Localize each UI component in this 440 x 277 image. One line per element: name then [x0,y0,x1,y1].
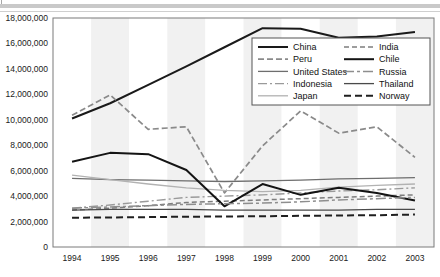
x-axis-tick-label: 1995 [101,253,120,263]
x-axis-tick-label: 2002 [367,253,386,263]
x-axis-tick-label: 2003 [405,253,424,263]
legend-label-india: India [379,42,399,52]
x-axis-tick-label: 1997 [177,253,196,263]
legend-label-russia: Russia [379,67,407,77]
x-axis-tick-label: 2001 [329,253,348,263]
x-axis-tick-label: 1999 [253,253,272,263]
x-axis-tick-label: 2000 [291,253,310,263]
y-axis-tick-labels: 02,000,0004,000,0006,000,0008,000,00010,… [5,13,48,252]
chart-canvas: 02,000,0004,000,0006,000,0008,000,00010,… [0,0,440,277]
legend-label-united-states: United States [293,67,348,77]
y-axis-tick-label: 6,000,000 [10,166,48,176]
y-axis-tick-label: 18,000,000 [5,13,48,23]
legend-label-japan: Japan [293,91,318,101]
line-chart-figure: 02,000,0004,000,0006,000,0008,000,00010,… [0,0,440,277]
chart-legend: ChinaPeruUnited StatesIndonesiaJapanIndi… [252,38,430,105]
x-axis-tick-label: 1996 [139,253,158,263]
y-axis-tick-label: 10,000,000 [5,115,48,125]
legend-label-indonesia: Indonesia [293,79,332,89]
legend-label-chile: Chile [379,54,400,64]
x-axis-tick-labels: 1994199519961997199819992000200120022003 [63,253,425,263]
legend-label-norway: Norway [379,91,410,101]
y-axis-tick-label: 4,000,000 [10,191,48,201]
y-axis-tick-label: 8,000,000 [10,140,48,150]
y-axis-tick-label: 14,000,000 [5,64,48,74]
legend-label-peru: Peru [293,54,312,64]
x-axis-tick-label: 1994 [63,253,82,263]
y-axis-tick-label: 2,000,000 [10,217,48,227]
y-axis-tick-label: 0 [43,242,48,252]
series-line-thailand [72,209,415,210]
legend-label-china: China [293,42,317,52]
x-axis-tick-label: 1998 [215,253,234,263]
y-axis-tick-label: 16,000,000 [5,38,48,48]
y-axis-tick-label: 12,000,000 [5,89,48,99]
legend-label-thailand: Thailand [379,79,414,89]
